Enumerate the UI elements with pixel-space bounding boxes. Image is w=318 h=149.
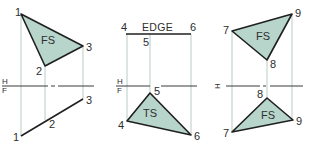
point-label-1: 1 [15,6,21,18]
projection-drawing: H F FS 1 2 3 1 2 3 H F EDGE 4 5 6 TS 4 5… [0,0,318,149]
point-label-4: 4 [118,119,124,131]
point-label-7: 7 [223,24,229,36]
view-a: H F FS 1 2 3 1 2 3 [2,6,94,143]
face-label: FS [256,30,270,42]
point-label-5: 5 [143,36,149,48]
face-ts-front-b [127,93,191,135]
point-label-5: 5 [154,85,160,97]
fold-label-f: F [117,86,122,95]
fold-label-h: H [117,77,123,86]
point-label-6: 6 [194,130,200,142]
point-label-8: 8 [257,88,263,100]
point-label-6: 6 [190,21,196,33]
face-label: FS [261,109,275,121]
point-label-9: 9 [296,115,302,127]
point-label-9: 9 [295,7,301,19]
point-label-3: 3 [86,94,92,106]
face-label: TS [143,107,157,119]
point-label-4: 4 [121,21,127,33]
face-label: FS [41,34,55,46]
edge-label: EDGE [142,21,173,33]
fold-label-f: F [2,86,7,95]
fold-label-h: H [213,83,222,89]
point-label-7: 7 [223,127,229,139]
view-c: H FS 7 8 9 FS 7 8 9 [213,7,303,139]
view-b: H F EDGE 4 5 6 TS 4 5 6 [116,21,200,142]
point-label-8: 8 [270,58,276,70]
orthographic-projection-figure: H F FS 1 2 3 1 2 3 H F EDGE 4 5 6 TS 4 5… [0,0,318,149]
point-label-2: 2 [49,118,55,130]
point-label-2: 2 [36,65,42,77]
point-label-3: 3 [86,41,92,53]
point-label-1: 1 [13,131,19,143]
fold-label-h: H [2,77,8,86]
